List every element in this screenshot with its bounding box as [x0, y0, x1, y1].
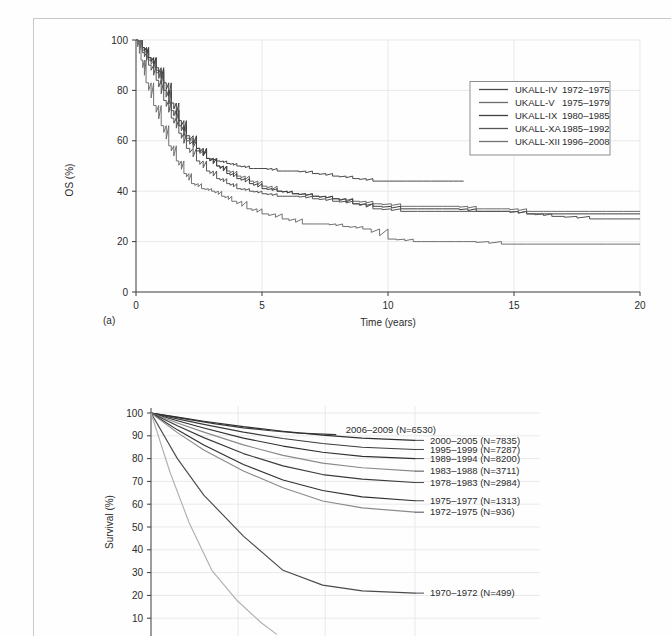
figure-b-y-axis-title: Survival (%): [104, 495, 115, 549]
figure-b-y-tick-label: 90: [132, 430, 144, 441]
figure-b-y-tick-label: 60: [132, 499, 144, 510]
figure-a-x-tick-label: 10: [382, 300, 394, 311]
figure-a-x-tick-label: 20: [634, 300, 646, 311]
figure-b-y-tick-label: 100: [126, 408, 143, 419]
figure-a-y-axis-title: OS (%): [64, 164, 75, 197]
figure-a-series-1: [136, 40, 464, 181]
figure-b-series-label-5: 1983–1988 (N=3711): [430, 465, 519, 476]
figure-b-y-tick-label: 20: [132, 590, 144, 601]
figure-a-legend[interactable]: UKALL-IV1972–1975UKALL-V1975–1979UKALL-I…: [470, 82, 610, 156]
figure-a-x-axis-title: Time (years): [360, 317, 416, 328]
figure-a-y-tick-label: 60: [117, 135, 129, 146]
figure-b: 102030405060708090100 2006–2009 (N=6530)…: [0, 340, 671, 636]
figure-b-y-tick-label: 50: [132, 522, 144, 533]
figure-a-y-tick-label: 0: [122, 287, 128, 298]
figure-b-series-label-1: 2006–2009 (N=6530): [346, 424, 436, 435]
figure-b-y-tick-label: 30: [132, 567, 144, 578]
legend-period-5: 1996–2008: [562, 136, 610, 147]
figure-a-gridlines: [136, 40, 640, 292]
figure-a-x-tick-label: 5: [259, 300, 265, 311]
figure-b-curves: [151, 413, 424, 634]
figure-b-y-tick-label: 40: [132, 544, 144, 555]
figure-b-series-label-4: 1989–1994 (N=8200): [430, 453, 520, 464]
legend-trial-3: UKALL-IX: [515, 110, 558, 121]
figure-a-y-tick-label: 80: [117, 85, 129, 96]
figure-a-ticks: 02040608010005101520: [111, 35, 646, 312]
figure-b-series-label-9: 1970–1972 (N=499): [430, 587, 515, 598]
figure-a-y-tick-label: 20: [117, 236, 129, 247]
figure-a-y-tick-label: 40: [117, 186, 129, 197]
legend-period-3: 1980–1985: [562, 110, 610, 121]
figure-page: 02040608010005101520 OS (%) Time (years)…: [0, 0, 671, 636]
figure-b-y-tick-label: 70: [132, 476, 144, 487]
legend-period-1: 1972–1975: [562, 84, 610, 95]
legend-trial-1: UKALL-IV: [515, 84, 558, 95]
figure-a-x-tick-label: 15: [508, 300, 520, 311]
figure-b-series-label-7: 1975–1977 (N=1313): [430, 495, 520, 506]
figure-b-series-label-8: 1972–1975 (N=936): [430, 506, 515, 517]
figure-a-y-tick-label: 100: [111, 35, 128, 46]
figure-a: 02040608010005101520 OS (%) Time (years)…: [0, 0, 671, 340]
figure-a-panel-label: (a): [103, 315, 115, 326]
legend-trial-2: UKALL-V: [515, 97, 555, 108]
figure-b-y-tick-label: 80: [132, 453, 144, 464]
legend-period-4: 1985–1992: [562, 123, 610, 134]
figure-b-y-tick-label: 10: [132, 613, 144, 624]
figure-a-x-tick-label: 0: [133, 300, 139, 311]
figure-b-series-label-6: 1978–1983 (N=2984): [430, 477, 520, 488]
figure-b-series-9: [151, 413, 415, 593]
legend-trial-5: UKALL-XII: [515, 136, 560, 147]
legend-period-2: 1975–1979: [562, 97, 610, 108]
figure-b-ticks: 102030405060708090100: [126, 408, 151, 624]
legend-trial-4: UKALL-XA: [515, 123, 562, 134]
